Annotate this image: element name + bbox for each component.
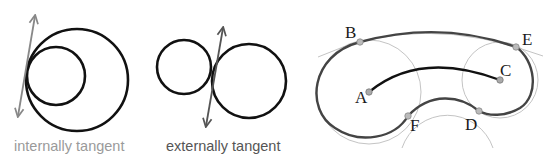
tangent-line-arrow <box>18 16 35 116</box>
internally-tangent-caption: internally tangent <box>14 138 124 154</box>
internally-tangent-diagram: internally tangent <box>14 16 128 154</box>
externally-tangent-diagram: externally tangent <box>157 28 286 154</box>
inner-arc-a-c <box>369 68 500 93</box>
small-circle <box>27 47 85 105</box>
externally-tangent-caption: externally tangent <box>166 138 280 154</box>
point-b <box>357 39 363 45</box>
tangent-circles-figure: internally tangent externally tangent A … <box>0 0 556 161</box>
large-circle <box>26 29 128 131</box>
tangent-curve-diagram: A B C D E F <box>316 23 543 148</box>
point-d <box>476 108 482 114</box>
right-circle <box>212 44 286 118</box>
label-f: F <box>410 116 419 135</box>
label-d: D <box>465 115 477 134</box>
left-circle <box>157 40 211 94</box>
label-b: B <box>345 23 356 42</box>
label-e: E <box>522 30 532 49</box>
point-e <box>513 44 519 50</box>
label-a: A <box>355 88 368 107</box>
label-c: C <box>500 61 511 80</box>
outer-curve <box>316 32 532 137</box>
